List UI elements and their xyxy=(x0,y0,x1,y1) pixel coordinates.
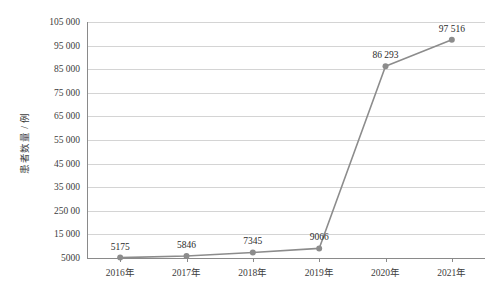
data-point-marker xyxy=(316,245,322,251)
x-axis-tick-mark xyxy=(187,258,188,262)
y-axis-tick-label: 15 000 xyxy=(54,229,80,239)
x-axis-tick-label: 2020年 xyxy=(371,265,400,279)
y-axis-tick-label: 55 000 xyxy=(54,135,80,145)
data-point-marker xyxy=(383,63,389,69)
y-axis-tick-label: 105 000 xyxy=(49,17,80,27)
x-axis-line xyxy=(87,258,485,259)
y-axis-tick-label: 95 000 xyxy=(54,41,80,51)
data-point-label: 86 293 xyxy=(372,50,398,60)
x-axis-tick-mark xyxy=(253,258,254,262)
data-point-marker xyxy=(250,249,256,255)
data-point-marker xyxy=(449,37,455,43)
series-markers xyxy=(117,37,455,261)
y-axis-tick-label: 250 00 xyxy=(54,206,80,216)
y-axis-tick-label: 65 000 xyxy=(54,111,80,121)
y-axis-tick-label: 45 000 xyxy=(54,159,80,169)
x-axis-tick-label: 2021年 xyxy=(437,265,466,279)
y-axis-tick-label: 35 000 xyxy=(54,182,80,192)
x-axis-tick-label: 2017年 xyxy=(172,265,201,279)
data-point-label: 9066 xyxy=(310,232,329,242)
y-axis-tick-label: 75 000 xyxy=(54,88,80,98)
data-point-label: 97 516 xyxy=(439,24,465,34)
x-axis-tick-label: 2016年 xyxy=(106,265,135,279)
data-point-label: 5846 xyxy=(177,240,196,250)
x-axis-tick-mark xyxy=(319,258,320,262)
x-axis-tick-label: 2019年 xyxy=(305,265,334,279)
y-axis-tick-label: 85 000 xyxy=(54,64,80,74)
data-point-label: 7345 xyxy=(243,236,262,246)
y-axis-tick-labels: 500015 000250 0035 00045 00055 00065 000… xyxy=(0,0,86,286)
series-line xyxy=(120,40,452,258)
x-axis-tick-mark xyxy=(120,258,121,262)
line-chart: 患者数量 / 例 500015 000250 0035 00045 00055 … xyxy=(0,0,502,286)
x-axis-tick-label: 2018年 xyxy=(238,265,267,279)
data-point-label: 5175 xyxy=(111,242,130,252)
x-axis-tick-mark xyxy=(386,258,387,262)
x-axis-tick-mark xyxy=(452,258,453,262)
data-series-patient-count xyxy=(87,22,485,258)
y-axis-tick-label: 5000 xyxy=(61,253,80,263)
